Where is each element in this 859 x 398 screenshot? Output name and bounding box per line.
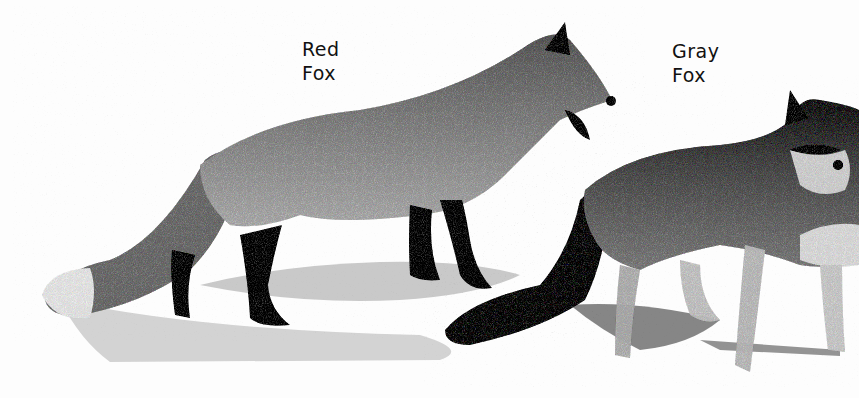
fox-illustration: [0, 0, 859, 398]
red-fox-label: Red Fox: [302, 37, 340, 85]
gray-fox-label-line2: Fox: [672, 63, 719, 87]
gray-fox-label: Gray Fox: [672, 39, 719, 87]
red-fox-label-line1: Red: [302, 37, 340, 61]
red-fox-label-line2: Fox: [302, 61, 340, 85]
gray-fox-label-line1: Gray: [672, 39, 719, 63]
